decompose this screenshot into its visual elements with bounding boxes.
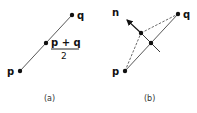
label-q: q [77, 10, 84, 21]
point-q [176, 12, 180, 16]
label-p: p [112, 66, 119, 77]
point-on-normal [139, 31, 143, 35]
caption-a: (a) [44, 94, 55, 103]
dashed-p-to-point [125, 33, 141, 71]
caption-b: (b) [144, 94, 155, 103]
dashed-point-to-q [141, 14, 178, 33]
label-q: q [183, 9, 190, 20]
point-q [70, 13, 74, 17]
panel-a: p q p + q 2 (a) [7, 10, 84, 103]
point-midpoint [44, 41, 48, 45]
label-p: p [7, 66, 14, 77]
diagram: p q p + q 2 (a) p q n (b) [0, 0, 197, 113]
point-p [18, 69, 22, 73]
panel-b: p q n (b) [112, 7, 190, 103]
label-n: n [112, 7, 119, 18]
point-p [123, 69, 127, 73]
point-intersection [149, 41, 153, 45]
label-midpoint-numerator: p + q [51, 37, 81, 48]
label-midpoint-denominator: 2 [61, 51, 67, 61]
normal-arrow [127, 20, 141, 33]
